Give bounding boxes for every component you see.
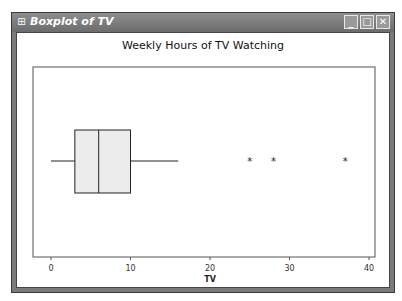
minimize-button[interactable]: _ <box>344 15 358 29</box>
window-title: Boxplot of TV <box>30 15 114 29</box>
close-button[interactable]: ✕ <box>376 15 390 29</box>
outlier-marker: * <box>271 156 276 167</box>
title-bar[interactable]: ⊞ Boxplot of TV _ □ ✕ <box>12 13 394 32</box>
boxplot-window: ⊞ Boxplot of TV _ □ ✕ Weekly Hours of TV… <box>11 12 395 293</box>
x-tick-label: 10 <box>125 264 135 273</box>
outlier-marker: * <box>247 156 252 167</box>
iqr-box <box>75 130 131 193</box>
grid-icon: ⊞ <box>16 16 27 27</box>
outlier-marker: * <box>343 156 348 167</box>
chart-area: Weekly Hours of TV Watching ***010203040… <box>16 32 390 288</box>
maximize-button[interactable]: □ <box>360 15 374 29</box>
x-tick-label: 20 <box>205 264 215 273</box>
x-tick-label: 40 <box>364 264 374 273</box>
x-tick-label: 30 <box>284 264 294 273</box>
x-axis-label: TV <box>204 275 216 284</box>
x-tick-label: 0 <box>48 264 53 273</box>
boxplot-svg: ***010203040TV <box>17 33 391 289</box>
